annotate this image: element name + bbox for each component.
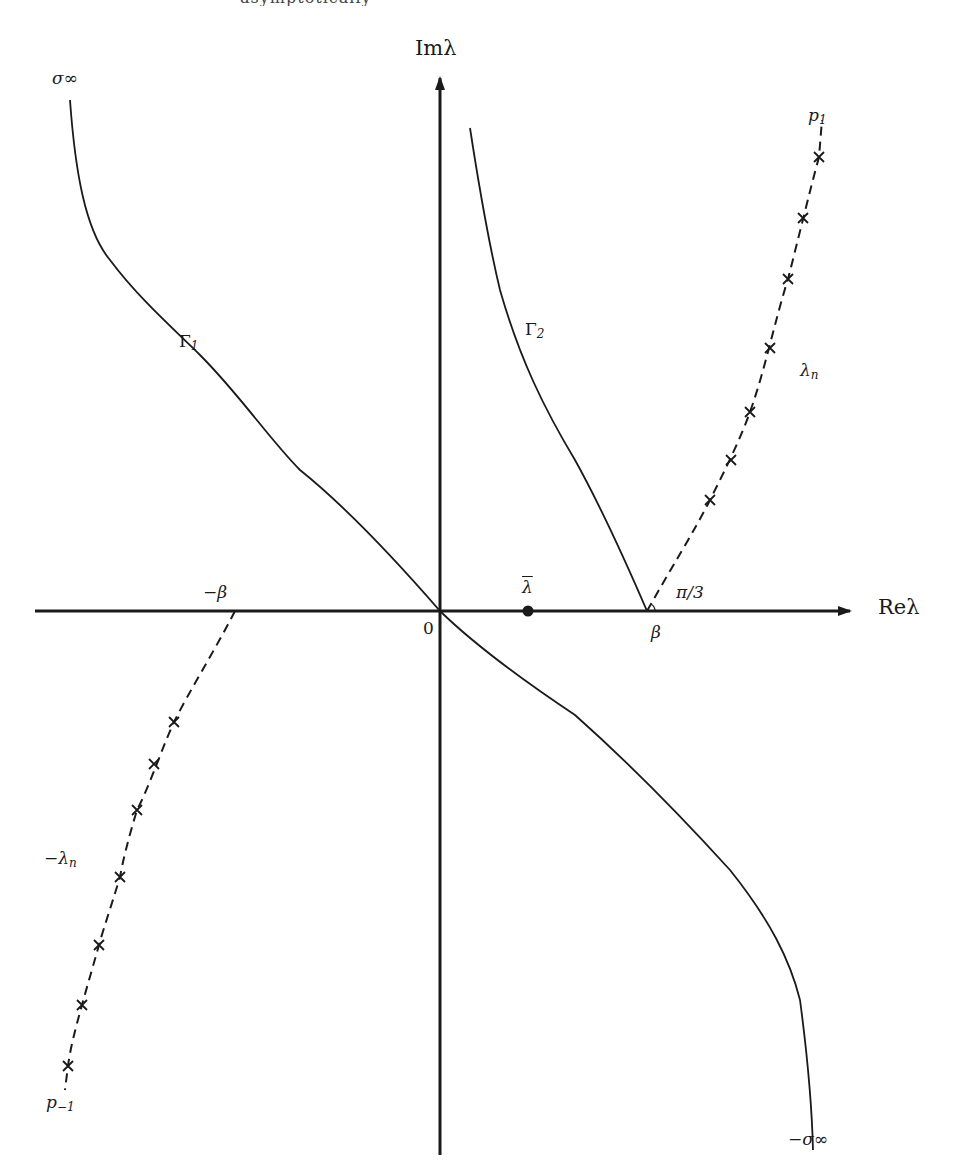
sigma-inf-text: σ∞: [52, 68, 78, 88]
gamma2-subscript: 2: [537, 327, 545, 341]
neg-sigma-inf-text: −σ∞: [788, 1129, 828, 1149]
gamma2-label: Γ2: [525, 321, 544, 340]
eigenvalue-markers-left: [63, 717, 179, 1071]
eigenvalue-cross-icon: [169, 717, 179, 727]
lambda-n-text: λ: [800, 360, 811, 380]
lambda-bar-point: [523, 606, 534, 617]
neg-beta-text: −β: [203, 582, 227, 602]
lambda-n-label: λn: [800, 362, 819, 381]
p1-subscript: 1: [819, 113, 827, 127]
lambda-bar-label: λ: [522, 579, 533, 596]
real-axis-label: Reλ: [878, 597, 920, 618]
neg-lambda-n-text: −λ: [44, 848, 69, 868]
imaginary-axis-label: Imλ: [415, 38, 457, 59]
gamma2-text: Γ: [525, 319, 537, 339]
neg-lambda-n-subscript: n: [69, 856, 77, 870]
lambda-n-dashed-path: [647, 120, 822, 611]
gamma2-contour: [470, 128, 647, 611]
beta-text: β: [651, 622, 661, 642]
lambda-n-subscript: n: [811, 368, 819, 382]
angle-pi-over-3-label: π/3: [676, 584, 704, 601]
eigenvalue-cross-icon: [705, 495, 715, 505]
origin-label: 0: [423, 620, 434, 637]
gamma1-text: Γ: [179, 331, 191, 351]
neg-sigma-infinity-label: −σ∞: [788, 1131, 828, 1148]
origin-text: 0: [423, 618, 434, 638]
eigenvalue-cross-icon: [726, 455, 736, 465]
p-neg1-subscript: −1: [57, 1100, 75, 1114]
neg-lambda-n-label: −λn: [44, 850, 77, 869]
p-neg1-label: p−1: [46, 1094, 75, 1113]
neg-lambda-n-dashed-path: [65, 611, 235, 1090]
sigma-infinity-label: σ∞: [52, 70, 78, 87]
y-axis-label-text: Imλ: [415, 36, 457, 60]
p1-label: p1: [808, 107, 827, 126]
eigenvalue-cross-icon: [745, 407, 755, 417]
angle-text: π/3: [676, 582, 704, 602]
gamma1-contour-upper: [70, 100, 440, 611]
beta-label: β: [651, 624, 661, 641]
eigenvalue-cross-icon: [132, 805, 142, 815]
complex-plane-diagram: [0, 0, 967, 1176]
neg-beta-label: −β: [203, 584, 227, 601]
lambda-bar-text: λ: [522, 577, 533, 597]
eigenvalue-cross-icon: [765, 343, 775, 353]
x-axis-label-text: Reλ: [878, 595, 920, 619]
gamma1-subscript: 1: [191, 339, 199, 353]
gamma1-contour-lower: [440, 611, 813, 1150]
p1-text: p: [808, 105, 819, 125]
gamma1-label: Γ1: [179, 333, 198, 352]
p-neg1-text: p: [46, 1092, 57, 1112]
